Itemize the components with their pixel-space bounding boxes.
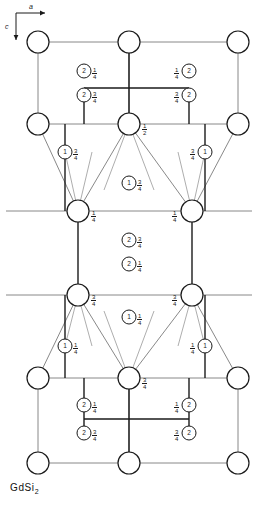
fraction-numerator: 1 — [137, 260, 142, 267]
fraction-denominator: 4 — [174, 74, 179, 80]
fraction-denominator: 4 — [174, 408, 179, 414]
gd-lower-right — [181, 284, 203, 306]
si-site-11-site-number: 1 — [63, 342, 67, 349]
fraction-denominator: 4 — [142, 384, 147, 390]
fraction-label: 34 — [174, 91, 179, 104]
si-site-16-site-number: 2 — [187, 429, 191, 436]
fraction-denominator: 4 — [174, 436, 179, 442]
fraction-numerator: 1 — [73, 342, 78, 349]
si-site-14-site-number: 2 — [187, 401, 191, 408]
gd-center-upper — [118, 113, 140, 135]
fraction-denominator: 4 — [172, 301, 177, 307]
gd-lower-left — [67, 284, 89, 306]
fraction-denominator: 4 — [92, 98, 97, 104]
fraction-numerator: 1 — [92, 67, 97, 74]
fraction-denominator: 4 — [190, 155, 195, 161]
si-site-10-site-number: 1 — [127, 313, 131, 320]
fraction-denominator: 4 — [137, 320, 142, 326]
axis-a-label: a — [29, 3, 33, 10]
fraction-numerator: 1 — [172, 210, 177, 217]
fraction-label: 34 — [137, 179, 142, 192]
si-site-12-site-number: 1 — [203, 342, 207, 349]
si-site-3-site-number: 2 — [82, 91, 86, 98]
fraction-label: 34 — [172, 294, 177, 307]
si-site-6-site-number: 1 — [203, 148, 207, 155]
fraction-numerator: 3 — [92, 91, 97, 98]
fraction-denominator: 4 — [137, 186, 142, 192]
si-site-5-site-number: 1 — [63, 148, 67, 155]
fraction-label: 34 — [190, 148, 195, 161]
fraction-numerator: 1 — [137, 313, 142, 320]
fraction-label: 14 — [91, 210, 96, 223]
fraction-numerator: 1 — [174, 401, 179, 408]
fraction-numerator: 1 — [92, 401, 97, 408]
fraction-denominator: 4 — [137, 243, 142, 249]
fraction-denominator: 4 — [91, 217, 96, 223]
fraction-label: 34 — [137, 236, 142, 249]
fraction-denominator: 4 — [190, 349, 195, 355]
formula-element: GdSi — [10, 482, 35, 493]
fraction-numerator: 1 — [91, 210, 96, 217]
si-site-15-site-number: 2 — [82, 429, 86, 436]
crystal-structure-figure: 2222111221112222 12141434343414143434343… — [0, 0, 258, 506]
fraction-numerator: 3 — [174, 429, 179, 436]
formula-subscript: 2 — [35, 488, 40, 495]
gd-bottom-center — [118, 452, 140, 474]
fraction-label: 14 — [92, 401, 97, 414]
formula-caption: GdSi2 — [10, 482, 39, 495]
gd-mid-right — [181, 200, 203, 222]
gd-bottom-center-upper — [118, 367, 140, 389]
gd-right-lower — [227, 367, 249, 389]
fraction-label: 34 — [92, 429, 97, 442]
si-site-2-site-number: 2 — [187, 67, 191, 74]
fraction-numerator: 3 — [91, 294, 96, 301]
si-site-8-site-number: 2 — [127, 236, 131, 243]
si-site-4-site-number: 2 — [187, 91, 191, 98]
fraction-label: 14 — [92, 67, 97, 80]
fraction-label: 34 — [73, 148, 78, 161]
gd-right-upper — [227, 113, 249, 135]
gd-left-lower — [27, 367, 49, 389]
fraction-numerator: 3 — [142, 377, 147, 384]
fraction-denominator: 4 — [172, 217, 177, 223]
gd-left-upper — [27, 113, 49, 135]
gd-corner-top-left — [27, 31, 49, 53]
axis-c-label: c — [5, 23, 9, 30]
fraction-label: 14 — [137, 313, 142, 326]
fraction-numerator: 3 — [172, 294, 177, 301]
fraction-label: 34 — [91, 294, 96, 307]
gd-top-center — [118, 31, 140, 53]
fraction-denominator: 4 — [92, 436, 97, 442]
fraction-label: 34 — [174, 429, 179, 442]
fraction-numerator: 1 — [142, 123, 147, 130]
fraction-denominator: 4 — [92, 408, 97, 414]
fraction-label: 34 — [92, 91, 97, 104]
fraction-numerator: 1 — [174, 67, 179, 74]
si-site-7-site-number: 1 — [127, 179, 131, 186]
large-atoms-group — [27, 31, 249, 474]
si-site-9-site-number: 2 — [127, 260, 131, 267]
fraction-numerator: 3 — [73, 148, 78, 155]
fraction-denominator: 2 — [142, 130, 147, 136]
fraction-numerator: 3 — [92, 429, 97, 436]
fraction-label: 34 — [142, 377, 147, 390]
fraction-denominator: 4 — [91, 301, 96, 307]
gd-mid-left — [67, 200, 89, 222]
fraction-label: 14 — [73, 342, 78, 355]
gd-corner-bottom-right — [227, 452, 249, 474]
fraction-numerator: 3 — [137, 236, 142, 243]
fraction-denominator: 4 — [174, 98, 179, 104]
fraction-numerator: 3 — [137, 179, 142, 186]
gd-corner-bottom-left — [27, 452, 49, 474]
si-site-13-site-number: 2 — [82, 401, 86, 408]
gd-corner-top-right — [227, 31, 249, 53]
fraction-numerator: 1 — [190, 342, 195, 349]
fraction-label: 14 — [190, 342, 195, 355]
fraction-label: 14 — [174, 67, 179, 80]
fraction-label: 12 — [142, 123, 147, 136]
fraction-label: 14 — [137, 260, 142, 273]
fraction-denominator: 4 — [137, 267, 142, 273]
fraction-numerator: 3 — [190, 148, 195, 155]
fraction-numerator: 3 — [174, 91, 179, 98]
fraction-label: 14 — [174, 401, 179, 414]
